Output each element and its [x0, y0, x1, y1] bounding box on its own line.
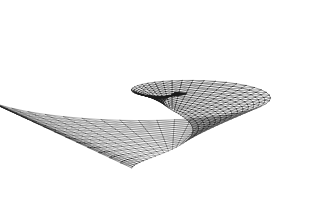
figure-viewport: 3D wireframe mesh surface	[0, 0, 326, 209]
figure-background	[0, 0, 326, 209]
wireframe-mesh-svg	[0, 0, 326, 209]
